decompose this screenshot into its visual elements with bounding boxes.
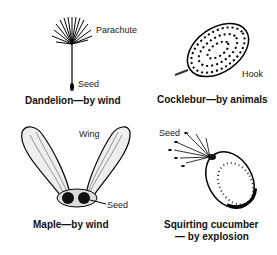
caption-cucumber-line1: Squirting cucumber <box>164 219 258 230</box>
caption-cucumber-line2: — by explosion <box>175 231 249 242</box>
label-seed: Seed <box>159 128 180 138</box>
cucumber-illustration <box>0 0 277 255</box>
